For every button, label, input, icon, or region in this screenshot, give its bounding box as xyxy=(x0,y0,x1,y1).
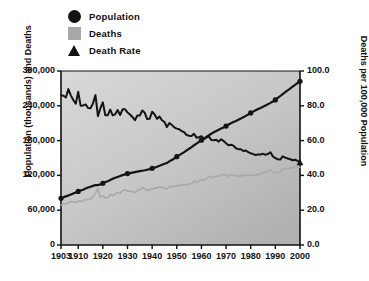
y-tick-5: 300,000 xyxy=(1,65,55,75)
y-tick-3: 180,000 xyxy=(1,135,55,145)
y2-tick-0: 0.0 xyxy=(307,239,347,249)
y-tick-0: 0 xyxy=(1,239,55,249)
y-axis-title-right: Deaths per 100,000 Population xyxy=(359,21,369,181)
legend-label-deaths: Deaths xyxy=(89,27,122,40)
y2-tick-2: 40.0 xyxy=(307,169,347,179)
circle-icon xyxy=(68,10,81,23)
y2-tick-1: 20.0 xyxy=(307,204,347,214)
y2-tick-4: 80.0 xyxy=(307,100,347,110)
legend-label-death-rate: Death Rate xyxy=(89,44,141,57)
triangle-icon xyxy=(68,44,81,57)
y-tick-1: 60,000 xyxy=(1,204,55,214)
square-icon xyxy=(68,27,81,40)
y2-tick-3: 60.0 xyxy=(307,135,347,145)
y-tick-2: 120,000 xyxy=(1,169,55,179)
legend-item-population: Population xyxy=(68,8,141,24)
legend-item-death-rate: Death Rate xyxy=(68,42,141,58)
legend-label-population: Population xyxy=(89,10,140,23)
y-tick-4: 240,000 xyxy=(1,100,55,110)
legend-item-deaths: Deaths xyxy=(68,25,141,41)
x-tick-10: 2000 xyxy=(284,251,316,261)
chart-legend: Population Deaths Death Rate xyxy=(68,8,141,59)
y2-tick-5: 100.0 xyxy=(307,65,347,75)
